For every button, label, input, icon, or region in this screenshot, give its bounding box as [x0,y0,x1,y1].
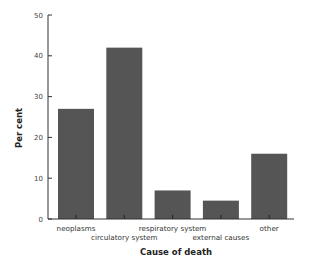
y-tick-label: 0 [39,216,43,224]
bar-other [251,154,287,219]
y-tick-label: 40 [34,52,43,60]
x-axis-title: Cause of death [140,247,212,257]
y-axis-title: Per cent [14,108,24,148]
x-category-label: external causes [193,233,250,242]
x-axis: neoplasmscirculatory systemrespiratory s… [48,219,294,242]
y-tick-label: 30 [34,93,43,101]
x-category-label: neoplasms [57,224,96,233]
bar-respiratory-system [155,190,191,219]
bar-neoplasms [58,109,94,219]
x-category-label: respiratory system [139,224,207,233]
y-tick-label: 50 [34,12,43,20]
bar-circulatory-system [106,48,142,219]
bar-chart: 01020304050 neoplasmscirculatory systemr… [0,0,309,264]
y-axis: 01020304050 [34,12,52,224]
x-category-label: circulatory system [91,233,157,242]
x-category-label: other [260,224,279,233]
bars [58,48,287,219]
y-tick-label: 10 [34,175,43,183]
y-tick-label: 20 [34,134,43,142]
